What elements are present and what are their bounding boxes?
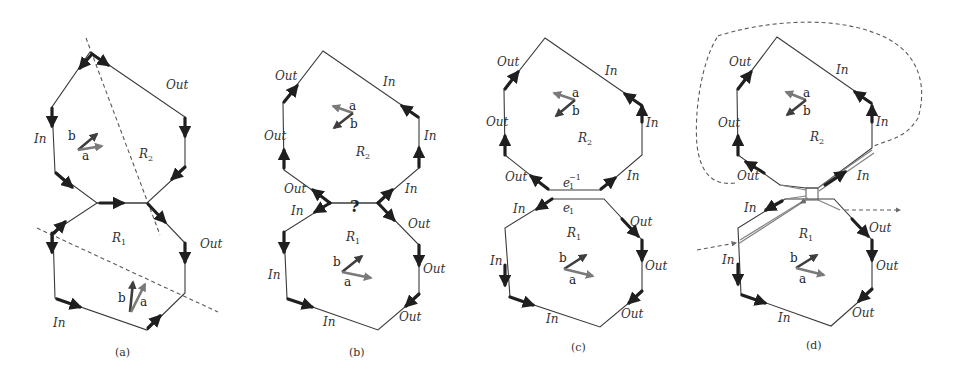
label-out: Out — [737, 169, 760, 183]
region-label-r1: R 1 — [798, 227, 813, 243]
region-label-r1: R 1 — [566, 226, 581, 242]
label-out: Out — [284, 182, 307, 196]
svg-text:R: R — [355, 145, 365, 159]
label-out: Out — [729, 55, 752, 69]
vector-pair-r2: a b — [333, 99, 358, 131]
vector-a-label: a — [140, 295, 147, 309]
region-label-r2: R 2 — [809, 130, 824, 146]
label-in: In — [875, 115, 888, 129]
svg-text:2: 2 — [148, 154, 153, 163]
vector-pair-r1: b a — [333, 255, 371, 289]
svg-text:1: 1 — [569, 182, 574, 191]
label-in: In — [545, 312, 558, 326]
label-in: In — [626, 169, 639, 183]
label-in: In — [290, 204, 303, 218]
label-out: Out — [486, 115, 509, 129]
svg-text:R: R — [809, 130, 819, 144]
vector-b-label: b — [333, 255, 341, 269]
vector-b-label: b — [803, 104, 811, 118]
label-in: In — [404, 182, 417, 196]
label-out: Out — [621, 307, 644, 321]
vector-b-label: b — [572, 104, 580, 118]
vector-pair-r2: a b — [786, 86, 811, 118]
label-out: Out — [200, 237, 223, 251]
label-out: Out — [497, 55, 520, 69]
vector-pair-r1: b a — [118, 282, 147, 312]
svg-text:R: R — [566, 226, 576, 240]
label-in: In — [835, 63, 848, 77]
region-label-r1: R 1 — [345, 230, 360, 246]
label-in: In — [645, 116, 658, 130]
label-out: Out — [408, 217, 431, 231]
svg-text:−1: −1 — [569, 173, 581, 182]
vector-a-label: a — [344, 275, 351, 289]
svg-text:R: R — [138, 147, 148, 161]
label-out: Out — [166, 78, 189, 92]
vector-b-label: b — [118, 291, 126, 305]
svg-text:1: 1 — [808, 234, 813, 243]
vector-pair-r2: b a — [68, 129, 102, 163]
label-out: Out — [852, 306, 875, 320]
vector-b-label: b — [790, 251, 798, 265]
vector-b-arrow — [796, 255, 817, 268]
vector-a-label: a — [82, 149, 89, 163]
vector-a-label: a — [803, 86, 810, 100]
label-in: In — [33, 132, 46, 146]
vector-a-label: a — [349, 99, 356, 113]
label-in: In — [52, 316, 65, 330]
vector-pair-r2: a b — [554, 86, 580, 118]
vector-b-arrow — [342, 256, 362, 272]
caption-a: (a) — [115, 346, 130, 359]
vector-b-label: b — [68, 129, 76, 143]
label-in: In — [267, 268, 280, 282]
label-in: In — [777, 311, 790, 325]
caption-b: (b) — [349, 346, 365, 359]
junction-question-mark: ? — [350, 197, 359, 216]
label-in: In — [604, 64, 617, 78]
panel-a: b a b a Out In Out In R 2 R 1 (a) — [33, 38, 223, 359]
diagram-canvas: b a b a Out In Out In R 2 R 1 (a) — [0, 0, 959, 380]
vector-pair-r1: b a — [559, 251, 593, 287]
region-label-r2: R 2 — [355, 145, 370, 161]
label-in: In — [322, 315, 335, 329]
vector-a-label: a — [799, 272, 806, 286]
label-out: Out — [505, 170, 528, 184]
label-in: In — [512, 202, 525, 216]
label-out: Out — [275, 69, 298, 83]
svg-text:R: R — [577, 131, 587, 145]
label-out: Out — [630, 215, 653, 229]
region-label-r2: R 2 — [138, 147, 153, 163]
vector-b-label: b — [350, 117, 358, 131]
region-label-r1: R 1 — [111, 231, 126, 247]
label-out: Out — [718, 116, 741, 130]
svg-text:1: 1 — [576, 233, 581, 242]
label-out: Out — [876, 259, 899, 273]
region-label-r2: R 2 — [577, 131, 592, 147]
figure: b a b a Out In Out In R 2 R 1 (a) — [0, 0, 959, 380]
label-out: Out — [264, 129, 287, 143]
label-in: In — [856, 169, 869, 183]
vector-a-label: a — [569, 273, 576, 287]
edge-label-e1-inverse: e 1 −1 — [563, 173, 581, 191]
vector-pair-r1: b a — [790, 251, 824, 286]
label-in: In — [382, 75, 395, 89]
dashed-boundary-curve — [696, 22, 921, 183]
caption-c: (c) — [571, 341, 586, 354]
panel-b: a b b a Out In Out In Out In In Out In O… — [264, 51, 446, 359]
label-out: Out — [645, 259, 668, 273]
region-r2-polygon — [52, 52, 185, 203]
svg-text:2: 2 — [365, 152, 370, 161]
label-in: In — [489, 254, 502, 268]
dashed-entry-arrow — [697, 243, 736, 250]
label-in: In — [721, 253, 734, 267]
panel-c: a b b a Out In Out In Out In In Out In O… — [486, 38, 668, 354]
svg-text:2: 2 — [819, 137, 824, 146]
svg-text:1: 1 — [121, 238, 126, 247]
label-out: Out — [423, 262, 446, 276]
vector-b-label: b — [559, 251, 567, 265]
dashed-split-line — [37, 228, 218, 312]
vector-b-arrow — [564, 255, 586, 269]
vector-a-label: a — [572, 86, 579, 100]
caption-d: (d) — [806, 339, 822, 352]
svg-text:2: 2 — [587, 138, 592, 147]
